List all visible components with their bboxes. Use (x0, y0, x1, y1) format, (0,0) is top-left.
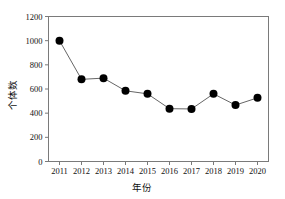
data-point (56, 37, 64, 45)
y-tick-label: 1000 (26, 36, 43, 46)
data-point (122, 87, 130, 95)
plot-frame (49, 17, 269, 162)
x-tick-label: 2016 (161, 166, 178, 176)
x-axis-title: 年份 (0, 180, 285, 194)
y-tick-label: 1200 (26, 12, 43, 22)
y-tick-label: 800 (30, 60, 43, 70)
line-chart-canvas: 020040060080010001200 201120122013201420… (0, 0, 285, 199)
y-tick-label: 200 (30, 132, 43, 142)
data-point (254, 94, 262, 102)
x-tick-label: 2012 (73, 166, 90, 176)
x-tick-label: 2011 (51, 166, 68, 176)
x-tick-label: 2020 (249, 166, 266, 176)
data-point (188, 105, 196, 113)
x-tick-label: 2018 (205, 166, 222, 176)
data-point (78, 75, 86, 83)
x-tick-label: 2014 (117, 166, 135, 176)
y-tick-label: 400 (30, 108, 43, 118)
y-tick-label: 0 (38, 157, 42, 167)
y-axis: 020040060080010001200 (26, 12, 49, 167)
chart-figure: 020040060080010001200 201120122013201420… (0, 0, 285, 199)
data-point (232, 101, 240, 109)
y-tick-label: 600 (30, 84, 43, 94)
data-point (210, 90, 218, 98)
y-axis-title: 个体数 (5, 65, 19, 125)
data-series-line (60, 41, 258, 109)
x-tick-label: 2015 (139, 166, 156, 176)
data-point (144, 90, 152, 98)
x-tick-label: 2017 (183, 166, 200, 176)
x-tick-label: 2019 (227, 166, 244, 176)
x-tick-label: 2013 (95, 166, 112, 176)
x-axis: 2011201220132014201520162017201820192020 (51, 162, 266, 177)
data-point (100, 74, 108, 82)
data-point (166, 105, 174, 113)
